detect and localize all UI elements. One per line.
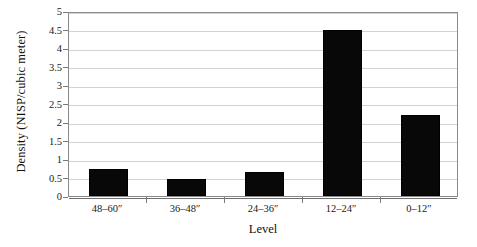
y-axis-tick-label: 0.5: [34, 174, 62, 184]
y-axis-tick-label: 3.5: [34, 63, 62, 73]
bar: [323, 30, 362, 197]
y-axis-tick-mark: [63, 160, 68, 161]
y-axis-tick-mark: [63, 49, 68, 50]
gridline: [69, 198, 457, 199]
bar-series: [69, 13, 457, 196]
x-axis-tick-label: 36–48″: [146, 203, 224, 214]
y-axis-tick-mark: [63, 86, 68, 87]
x-axis-title: Level: [68, 222, 458, 237]
y-axis-tick-label: 2: [34, 118, 62, 128]
y-axis-title: Density (NISP/cubic meter): [14, 7, 29, 197]
y-axis-tick-mark: [63, 104, 68, 105]
y-axis-tick-mark: [63, 123, 68, 124]
y-axis-tick-mark: [63, 30, 68, 31]
x-axis-tick-label: 24–36″: [224, 203, 302, 214]
x-axis-tick-label: 0–12″: [380, 203, 458, 214]
y-axis-tick-label: 4.5: [34, 26, 62, 36]
y-axis-tick-mark: [63, 197, 68, 198]
y-axis-tick-label: 0: [34, 192, 62, 202]
y-axis-tick-labels: 00.511.522.533.544.55: [34, 12, 62, 197]
y-axis-tick-label: 5: [34, 7, 62, 17]
bar: [167, 179, 206, 196]
y-axis-tick-label: 3: [34, 81, 62, 91]
y-axis-tick-label: 1.5: [34, 137, 62, 147]
x-axis-tick-label: 12–24″: [302, 203, 380, 214]
y-axis-tick-mark: [63, 141, 68, 142]
y-axis-tick-label: 4: [34, 44, 62, 54]
plot-area: [68, 12, 458, 197]
bar: [401, 115, 440, 196]
y-axis-tick-mark: [63, 178, 68, 179]
bar: [89, 169, 128, 196]
y-axis-tick-mark: [63, 12, 68, 13]
x-axis-tick-label: 48–60″: [68, 203, 146, 214]
y-axis-tick-label: 2.5: [34, 100, 62, 110]
bar: [245, 172, 284, 196]
bar-chart: Density (NISP/cubic meter) 00.511.522.53…: [0, 0, 477, 247]
y-axis-tick-mark: [63, 67, 68, 68]
y-axis-tick-label: 1: [34, 155, 62, 165]
